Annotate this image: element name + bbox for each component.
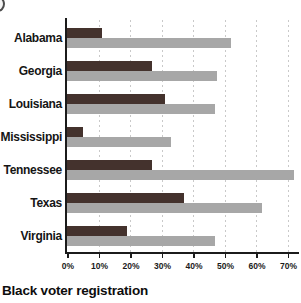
tick-label-70%: 70%	[280, 261, 297, 271]
y-axis-line	[65, 18, 67, 254]
bar-alabama-gray-series	[67, 38, 231, 48]
tick-mark-40%	[193, 254, 195, 258]
tick-mark-0%	[67, 254, 69, 258]
chart-title: Black voter registration	[2, 283, 148, 298]
gridline-20%	[130, 20, 131, 252]
bar-texas-dark-red-series	[67, 193, 184, 203]
gridline-60%	[256, 20, 257, 252]
bar-mississippi-gray-series	[67, 137, 171, 147]
tick-label-50%: 50%	[217, 261, 234, 271]
gridline-50%	[225, 20, 226, 252]
category-label-virginia: Virginia	[0, 229, 62, 243]
tick-label-20%: 20%	[122, 261, 139, 271]
bar-mississippi-dark-red-series	[67, 127, 83, 137]
tick-label-0%: 0%	[62, 261, 74, 271]
bar-virginia-gray-series	[67, 236, 215, 246]
gridline-40%	[193, 20, 194, 252]
bar-virginia-dark-red-series	[67, 226, 127, 236]
tick-mark-70%	[288, 254, 290, 258]
bar-alabama-dark-red-series	[67, 28, 102, 38]
cropped-circle-icon	[0, 0, 5, 12]
category-label-tennessee: Tennessee	[0, 163, 62, 177]
bar-georgia-gray-series	[67, 71, 217, 81]
x-axis-line	[65, 252, 299, 254]
gridline-70%	[288, 20, 289, 252]
tick-label-40%: 40%	[186, 261, 203, 271]
gridline-30%	[162, 20, 163, 252]
category-label-georgia: Georgia	[0, 64, 62, 78]
category-label-alabama: Alabama	[0, 31, 62, 45]
bar-tennessee-dark-red-series	[67, 160, 152, 170]
tick-label-30%: 30%	[154, 261, 171, 271]
tick-mark-50%	[225, 254, 227, 258]
bar-tennessee-gray-series	[67, 170, 294, 180]
tick-label-10%: 10%	[91, 261, 108, 271]
bar-georgia-dark-red-series	[67, 61, 152, 71]
bar-texas-gray-series	[67, 203, 262, 213]
category-label-texas: Texas	[0, 196, 62, 210]
tick-mark-60%	[256, 254, 258, 258]
gridline-10%	[99, 20, 100, 252]
bar-louisiana-gray-series	[67, 104, 215, 114]
chart-figure: AlabamaGeorgiaLouisianaMississippiTennes…	[0, 0, 301, 303]
tick-mark-10%	[99, 254, 101, 258]
tick-mark-20%	[130, 254, 132, 258]
category-label-louisiana: Louisiana	[0, 97, 62, 111]
bar-louisiana-dark-red-series	[67, 94, 165, 104]
tick-mark-30%	[162, 254, 164, 258]
plot-area	[67, 20, 297, 252]
category-label-mississippi: Mississippi	[0, 130, 62, 144]
tick-label-60%: 60%	[249, 261, 266, 271]
